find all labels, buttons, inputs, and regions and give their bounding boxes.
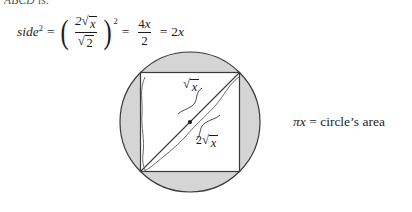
diameter-label: 2√x <box>196 133 218 150</box>
inner-fraction-denominator: √2 <box>75 32 97 51</box>
figure-page: ABCD is: side2 = ( 2√x √2 ) 2 = 4x 2 <box>0 0 412 212</box>
paren-exponent: 2 <box>113 16 117 26</box>
radical-sign-icon: √ <box>202 133 209 146</box>
diameter-radicand: x <box>209 135 218 150</box>
inner-den-radicand: 2 <box>85 35 94 50</box>
caption-text: circle’s area <box>320 114 385 129</box>
paren-close: ) <box>104 20 112 44</box>
caption-variable: x <box>300 114 306 129</box>
geometry-diagram: √x 2√x <box>112 44 272 204</box>
paren-open: ( <box>60 20 68 44</box>
inner-fraction: 2√x √2 <box>72 14 100 50</box>
lhs-base: side <box>17 24 39 40</box>
clipped-header-text: ABCD is: <box>4 0 50 6</box>
radical-sign-icon: √ <box>78 34 85 47</box>
radius-label: √x <box>183 77 199 94</box>
equation-lhs: side2 <box>17 24 43 40</box>
inner-den-radical: √2 <box>78 34 94 51</box>
equation-result: 2x <box>171 24 184 40</box>
radical-sign-icon: √ <box>81 14 88 27</box>
circle-center-dot <box>188 120 192 124</box>
result-variable: x <box>178 24 184 40</box>
equals-sign-1: = <box>47 24 55 40</box>
equals-sign-3: = <box>160 24 168 40</box>
diameter-radical: √x <box>202 133 218 150</box>
radical-sign-icon: √ <box>183 77 190 90</box>
caption-equals: = <box>309 114 317 129</box>
diagram-svg <box>112 44 272 204</box>
inner-fraction-numerator: 2√x <box>72 14 100 32</box>
radius-radical: √x <box>183 77 199 94</box>
radius-radicand: x <box>190 79 199 94</box>
second-fraction: 4x 2 <box>135 17 153 47</box>
equals-sign-2: = <box>122 24 130 40</box>
lhs-exponent: 2 <box>39 23 43 33</box>
result-coefficient: 2 <box>171 24 178 40</box>
parenthesized-fraction: ( 2√x √2 ) 2 <box>59 14 118 50</box>
second-fraction-numerator: 4x <box>135 17 153 32</box>
inner-num-radical: √x <box>81 14 97 31</box>
pi-symbol: π <box>293 114 300 129</box>
circle-area-caption: πx = circle’s area <box>293 114 385 130</box>
frac2-num-variable: x <box>145 16 151 31</box>
inner-num-radicand: x <box>89 16 98 31</box>
